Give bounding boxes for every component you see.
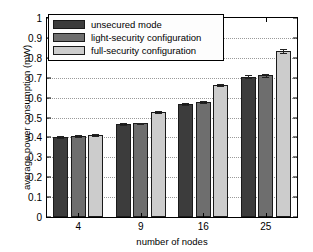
x-tick-mark	[141, 213, 142, 217]
error-bar-cap	[262, 74, 269, 75]
x-tick-mark	[78, 213, 79, 217]
y-tick-label: 0.9	[28, 32, 42, 43]
error-bar-cap	[182, 103, 189, 104]
bar-9-series-2	[151, 112, 166, 217]
error-bar-cap	[217, 86, 224, 87]
y-tick-mark	[293, 117, 297, 118]
bar-4-series-2	[88, 135, 103, 217]
error-bar-cap	[57, 138, 64, 139]
bar-25-series-1	[258, 75, 273, 217]
legend-item: light-security configuration	[53, 31, 219, 44]
legend-swatch-icon	[53, 33, 85, 42]
y-tick-mark	[47, 77, 51, 78]
legend-item: unsecured mode	[53, 18, 219, 31]
error-bar-cap	[217, 84, 224, 85]
x-tick-label: 4	[75, 221, 81, 232]
bar-chart-figure: average power consumption (mW) 00.10.20.…	[0, 0, 313, 252]
error-bar-cap	[200, 103, 207, 104]
legend-label: full-security configuration	[91, 45, 196, 56]
y-tick-mark	[47, 157, 51, 158]
y-tick-label: 0.1	[28, 192, 42, 203]
error-bar-cap	[75, 137, 82, 138]
bar-25-series-2	[276, 51, 291, 217]
y-tick-mark	[293, 177, 297, 178]
y-tick-label: 0.2	[28, 172, 42, 183]
y-tick-label: 1	[36, 13, 42, 24]
bar-9-series-0	[116, 124, 131, 217]
bar-9-series-1	[133, 123, 148, 217]
legend-label: light-security configuration	[91, 32, 201, 43]
error-bar-cap	[200, 101, 207, 102]
legend-swatch-icon	[53, 20, 85, 29]
error-bar-cap	[245, 75, 252, 76]
bar-16-series-1	[196, 102, 211, 217]
y-tick-mark	[293, 217, 297, 218]
y-tick-mark	[47, 137, 51, 138]
bar-25-series-0	[241, 77, 256, 217]
legend-swatch-icon	[53, 46, 85, 55]
error-bar-cap	[120, 125, 127, 126]
y-tick-label: 0.7	[28, 72, 42, 83]
bar-4-series-1	[71, 136, 86, 217]
error-bar-cap	[280, 53, 287, 54]
y-tick-mark	[47, 197, 51, 198]
x-tick-mark	[266, 18, 267, 22]
error-bar-cap	[137, 124, 144, 125]
error-bar-cap	[92, 136, 99, 137]
x-tick-label: 16	[198, 221, 209, 232]
y-tick-mark	[293, 57, 297, 58]
error-bar-cap	[182, 105, 189, 106]
bar-16-series-0	[178, 104, 193, 217]
x-axis-title: number of nodes	[46, 236, 298, 247]
x-tick-mark	[203, 213, 204, 217]
error-bar-cap	[155, 113, 162, 114]
error-bar-cap	[262, 77, 269, 78]
x-tick-label: 25	[260, 221, 271, 232]
y-tick-label: 0.4	[28, 132, 42, 143]
y-tick-mark	[47, 97, 51, 98]
legend-label: unsecured mode	[91, 19, 162, 30]
y-tick-label: 0.5	[28, 112, 42, 123]
legend-item: full-security configuration	[53, 44, 219, 57]
y-tick-mark	[293, 197, 297, 198]
bar-4-series-0	[53, 137, 68, 217]
y-tick-mark	[293, 37, 297, 38]
y-tick-mark	[293, 97, 297, 98]
y-tick-mark	[293, 137, 297, 138]
error-bar-cap	[245, 78, 252, 79]
y-tick-mark	[293, 77, 297, 78]
y-tick-label: 0.6	[28, 92, 42, 103]
y-tick-mark	[293, 18, 297, 19]
y-tick-mark	[47, 177, 51, 178]
x-tick-mark	[266, 213, 267, 217]
chart-legend: unsecured mode light-security configurat…	[48, 14, 224, 61]
y-tick-label: 0.3	[28, 152, 42, 163]
bar-16-series-2	[213, 85, 228, 217]
y-tick-mark	[47, 117, 51, 118]
y-tick-mark	[293, 157, 297, 158]
x-tick-label: 9	[138, 221, 144, 232]
error-bar-cap	[280, 49, 287, 50]
y-tick-label: 0.8	[28, 52, 42, 63]
error-bar-cap	[155, 111, 162, 112]
y-tick-mark	[47, 217, 51, 218]
y-tick-label: 0	[36, 212, 42, 223]
